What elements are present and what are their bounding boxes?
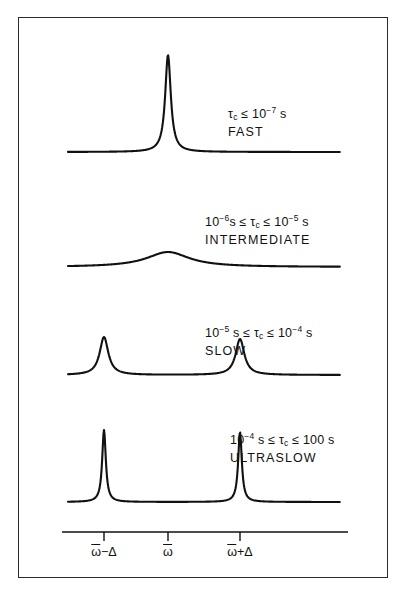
- tick-label-suffix: +Δ: [237, 545, 253, 559]
- label-slow: 10−5 s ≤ τc ≤ 10−4 s SLOW: [205, 323, 312, 362]
- tick-label-omega-minus-delta: ω−Δ: [91, 545, 116, 559]
- regime-fast: FAST: [228, 123, 287, 142]
- label-intermediate: 10−6s ≤ τc ≤ 10−5 s INTERMEDIATE: [205, 212, 310, 251]
- regime-slow: SLOW: [205, 342, 312, 361]
- omega-bar-glyph: ω: [163, 545, 173, 559]
- tick-label-omega: ω: [163, 545, 173, 559]
- tick-label-suffix: −Δ: [101, 545, 117, 559]
- figure-container: τc ≤ 10−7 s FAST 10−6s ≤ τc ≤ 10−5 s INT…: [0, 0, 404, 593]
- condition-slow: 10−5 s ≤ τc ≤ 10−4 s: [205, 323, 312, 342]
- condition-fast: τc ≤ 10−7 s: [228, 104, 287, 123]
- omega-bar-glyph: ω: [91, 545, 101, 559]
- regime-intermediate: INTERMEDIATE: [205, 231, 310, 250]
- tick-label-omega-plus-delta: ω+Δ: [227, 545, 252, 559]
- condition-ultraslow: 10−4 s ≤ τc ≤ 100 s: [230, 430, 335, 449]
- figure-border: [18, 17, 388, 578]
- omega-bar-glyph: ω: [227, 545, 237, 559]
- regime-ultraslow: ULTRASLOW: [230, 449, 335, 468]
- condition-intermediate: 10−6s ≤ τc ≤ 10−5 s: [205, 212, 310, 231]
- label-ultraslow: 10−4 s ≤ τc ≤ 100 s ULTRASLOW: [230, 430, 335, 469]
- label-fast: τc ≤ 10−7 s FAST: [228, 104, 287, 143]
